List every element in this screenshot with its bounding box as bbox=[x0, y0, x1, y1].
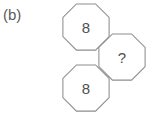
figure-container: (b) 8 ? 8 bbox=[0, 0, 157, 114]
octagon-cell-top: 8 bbox=[63, 4, 109, 50]
octagon-cell-right: ? bbox=[99, 34, 145, 80]
octagon-right-value: ? bbox=[118, 49, 126, 66]
octagon-bottom-value: 8 bbox=[82, 80, 90, 97]
octagon-top-value: 8 bbox=[82, 19, 90, 36]
octagon-cell-bottom: 8 bbox=[63, 65, 109, 111]
octagon-diagram: 8 ? 8 bbox=[0, 0, 157, 114]
